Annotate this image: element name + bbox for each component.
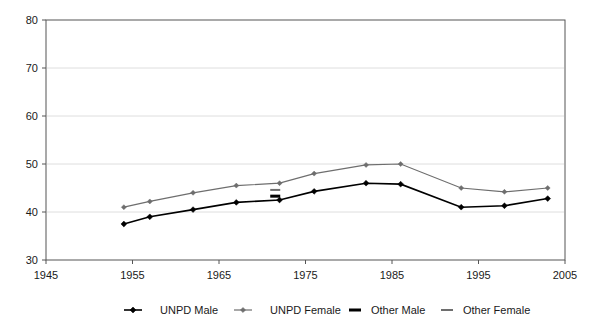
series-other-female bbox=[270, 189, 280, 191]
x-tick-label: 1975 bbox=[293, 269, 317, 281]
y-tick-label: 60 bbox=[26, 110, 38, 122]
legend-dash-icon bbox=[441, 309, 453, 311]
dash-marker bbox=[270, 195, 280, 198]
dash-marker bbox=[270, 189, 280, 191]
chart-canvas: 304050607080 194519551965197519851995200… bbox=[0, 0, 608, 333]
y-tick-label: 40 bbox=[26, 206, 38, 218]
x-tick-label: 1995 bbox=[466, 269, 490, 281]
y-tick-label: 70 bbox=[26, 62, 38, 74]
chart-background bbox=[0, 0, 608, 333]
legend-label: Other Male bbox=[371, 304, 425, 316]
x-tick-label: 1965 bbox=[207, 269, 231, 281]
chart-container: 304050607080 194519551965197519851995200… bbox=[0, 0, 608, 333]
y-tick-label: 50 bbox=[26, 158, 38, 170]
x-tick-label: 1945 bbox=[34, 269, 58, 281]
x-tick-label: 1955 bbox=[120, 269, 144, 281]
y-tick-label: 30 bbox=[26, 254, 38, 266]
x-tick-label: 1985 bbox=[380, 269, 404, 281]
legend-label: Other Female bbox=[463, 304, 530, 316]
x-tick-label: 2005 bbox=[553, 269, 577, 281]
legend-label: UNPD Male bbox=[160, 304, 218, 316]
legend-label: UNPD Female bbox=[270, 304, 341, 316]
legend-dash-icon bbox=[349, 309, 361, 312]
y-tick-label: 80 bbox=[26, 14, 38, 26]
series-other-male bbox=[270, 195, 280, 198]
